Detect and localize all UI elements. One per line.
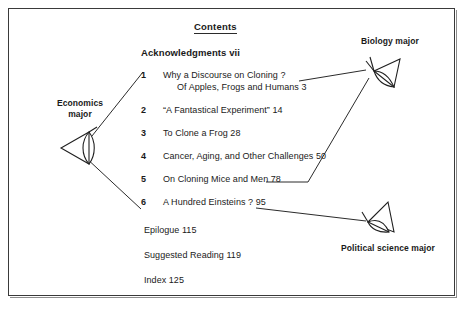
viewpoint-political-science-label: Political science major: [330, 243, 446, 254]
eye-viewpoint-icon: [56, 123, 102, 169]
chapter-4[interactable]: 4 Cancer, Aging, and Other Challenges 50: [141, 151, 351, 162]
viewpoint-biology[interactable]: Biology major: [344, 36, 436, 95]
viewpoint-economics-label-line-2: major: [68, 109, 92, 119]
viewpoint-economics[interactable]: Economics major: [38, 98, 122, 169]
page-title: Contents: [194, 21, 237, 34]
back-matter-list: Epilogue 115 Suggested Reading 119 Index…: [144, 225, 351, 286]
viewpoint-biology-label: Biology major: [344, 36, 436, 47]
acknowledgments-entry: Acknowledgments vii: [141, 47, 351, 58]
chapter-5[interactable]: 5 On Cloning Mice and Men 78: [141, 174, 351, 185]
viewpoint-political-science[interactable]: Political science major: [330, 196, 446, 254]
chapter-number: 6: [141, 197, 153, 208]
chapter-number: 3: [141, 128, 153, 139]
chapter-3[interactable]: 3 To Clone a Frog 28: [141, 128, 351, 139]
back-matter-suggested-reading[interactable]: Suggested Reading 119: [144, 250, 351, 261]
table-of-contents: Contents Acknowledgments vii 1 Why a Dis…: [141, 16, 351, 286]
chapter-title: On Cloning Mice and Men 78: [163, 174, 351, 185]
chapter-6[interactable]: 6 A Hundred Einsteins ? 95: [141, 197, 351, 208]
back-matter-epilogue[interactable]: Epilogue 115: [144, 225, 351, 236]
chapter-number: 1: [141, 70, 153, 81]
chapter-number: 2: [141, 105, 153, 116]
chapter-number: 5: [141, 174, 153, 185]
chapter-1[interactable]: 1 Why a Discourse on Cloning ? Of Apples…: [141, 70, 351, 93]
chapter-title: To Clone a Frog 28: [163, 128, 351, 139]
chapter-title: A Hundred Einsteins ? 95: [163, 197, 351, 208]
viewpoint-economics-label-line-1: Economics: [57, 98, 103, 108]
eye-viewpoint-icon: [358, 196, 404, 242]
viewpoint-economics-label: Economics major: [38, 98, 122, 120]
chapter-number: 4: [141, 151, 153, 162]
chapter-title: Cancer, Aging, and Other Challenges 50: [163, 151, 351, 162]
eye-viewpoint-icon: [360, 49, 406, 95]
chapter-2[interactable]: 2 “A Fantastical Experiment” 14: [141, 105, 351, 116]
chapter-title: Why a Discourse on Cloning ?: [163, 70, 351, 81]
chapter-subtitle: Of Apples, Frogs and Humans 3: [177, 82, 351, 93]
chapter-title: “A Fantastical Experiment” 14: [163, 105, 351, 116]
back-matter-index[interactable]: Index 125: [144, 275, 351, 286]
chapter-list: 1 Why a Discourse on Cloning ? Of Apples…: [141, 70, 351, 208]
